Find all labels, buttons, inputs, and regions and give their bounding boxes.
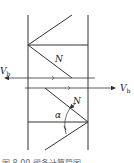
label-angle: α <box>55 110 61 120</box>
label-axial-upper: N <box>54 54 64 64</box>
figure-caption: 图 8.00 缀条计算简图 <box>2 158 81 163</box>
label-shear-right: Vb <box>120 83 131 94</box>
lower-diagonal-top <box>45 88 88 122</box>
label-axial-lower: N <box>72 96 82 106</box>
lacing-diagram: N N α Vb Vb 图 8.00 缀条计算简图 <box>0 0 134 163</box>
angle-arc <box>65 108 70 134</box>
upper-diagonal-top <box>28 15 72 45</box>
label-shear-left: Vb <box>0 66 11 77</box>
upper-diagonal-bottom <box>28 45 72 78</box>
lower-diagonal-bottom <box>45 122 88 150</box>
